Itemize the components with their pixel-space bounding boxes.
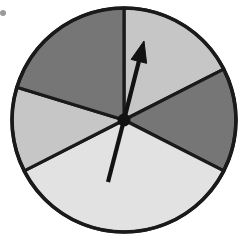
needle-pivot bbox=[118, 114, 131, 127]
corner-speck bbox=[0, 10, 6, 16]
spinner-wheel-graphic bbox=[0, 0, 244, 243]
spinner-figure bbox=[0, 0, 244, 243]
